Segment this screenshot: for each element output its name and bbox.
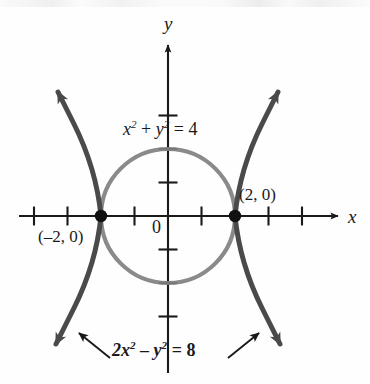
intersection-label-left: (–2, 0) xyxy=(38,228,83,245)
circle-eq-term-b: y xyxy=(156,119,164,139)
y-axis-label: y xyxy=(164,14,172,33)
graph-figure: y x 0 x2 + y2 = 4 2x2 – y2 = 8 (–2, 0) (… xyxy=(0,0,370,384)
hyperbola-equation-label: 2x2 – y2 = 8 xyxy=(112,341,195,359)
circle-eq-equals: = 4 xyxy=(169,119,197,139)
pointer-arrow-left xyxy=(79,333,110,358)
pointer-arrow-right xyxy=(228,333,259,358)
point-marker-right xyxy=(229,210,241,222)
circle-equation-label: x2 + y2 = 4 xyxy=(123,120,197,138)
origin-label: 0 xyxy=(152,218,161,236)
intersection-label-right: (2, 0) xyxy=(239,186,276,203)
circle-eq-term-a: x xyxy=(123,119,131,139)
x-axis-label: x xyxy=(348,207,356,226)
hyperbola-eq-term-a: 2x xyxy=(112,340,130,360)
coordinate-plot xyxy=(0,0,370,384)
circle-eq-operator: + xyxy=(137,119,156,139)
hyperbola-eq-operator: – xyxy=(136,340,154,360)
hyperbola-eq-term-b: y xyxy=(154,340,162,360)
hyperbola-eq-equals: = 8 xyxy=(167,340,195,360)
point-marker-left xyxy=(95,210,107,222)
